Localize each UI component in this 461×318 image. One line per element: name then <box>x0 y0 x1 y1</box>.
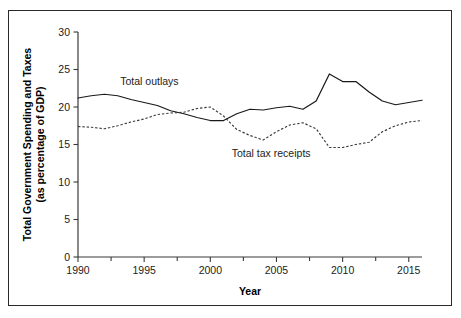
y-tick-label-30: 30 <box>58 26 70 38</box>
x-axis-title: Year <box>239 285 261 297</box>
line-chart: 051015202530199019952000200520102015Tota… <box>9 11 453 307</box>
x-tick-label-2000: 2000 <box>199 264 223 276</box>
x-tick-label-1990: 1990 <box>66 264 90 276</box>
x-tick-label-2010: 2010 <box>331 264 355 276</box>
series-annotation-total-tax-receipts: Total tax receipts <box>232 147 311 159</box>
y-tick-label-0: 0 <box>64 251 70 263</box>
x-tick-label-2015: 2015 <box>397 264 421 276</box>
chart-plot-area: 051015202530199019952000200520102015Tota… <box>9 11 453 307</box>
y-axis-title-line2: (as percentage of GDP) <box>34 86 46 202</box>
x-tick-label-2005: 2005 <box>265 264 289 276</box>
y-axis-title: Total Government Spending and Taxes(as p… <box>21 48 46 241</box>
y-tick-label-15: 15 <box>58 138 70 150</box>
y-tick-label-25: 25 <box>58 63 70 75</box>
x-tick-label-1995: 1995 <box>132 264 156 276</box>
y-tick-label-10: 10 <box>58 176 70 188</box>
y-tick-label-5: 5 <box>64 213 70 225</box>
series-annotation-total-outlays: Total outlays <box>120 75 178 87</box>
y-tick-label-20: 20 <box>58 101 70 113</box>
chart-figure-frame: 051015202530199019952000200520102015Tota… <box>8 10 452 306</box>
y-axis-title-line1: Total Government Spending and Taxes <box>21 48 33 241</box>
series-line-total-tax-receipts <box>78 107 422 148</box>
